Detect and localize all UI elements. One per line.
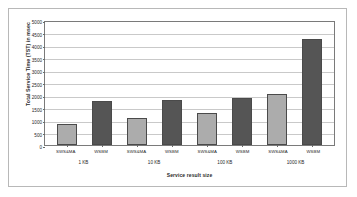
- bar[interactable]: [92, 101, 112, 145]
- x-tick-mark: [277, 145, 278, 147]
- bar[interactable]: [127, 118, 147, 145]
- x-tick-mark: [207, 145, 208, 147]
- bar-slot: [49, 22, 84, 145]
- x-axis-group-label: 10 KB: [119, 160, 190, 165]
- bar-series: [45, 22, 334, 145]
- bar-slot: [154, 22, 189, 145]
- x-axis-category-label: WSBM: [225, 149, 260, 154]
- bar-slot: [190, 22, 225, 145]
- bar-slot: [295, 22, 330, 145]
- screenshot-root: Total Service Time (TST) in msec 0500100…: [0, 0, 357, 197]
- x-axis-category-labels: SWS&MAWSBMSWS&MAWSBMSWS&MAWSBMSWS&MAWSBM: [44, 149, 335, 154]
- x-tick-mark: [137, 145, 138, 147]
- x-axis-category-label: WSBM: [83, 149, 118, 154]
- x-axis-category-label: SWS&MA: [119, 149, 154, 154]
- x-axis-category-label: WSBM: [154, 149, 189, 154]
- y-tick-label: 1000: [32, 120, 42, 125]
- y-tick-label: 4000: [32, 45, 42, 50]
- bar-slot: [84, 22, 119, 145]
- figure-frame: Total Service Time (TST) in msec 0500100…: [8, 8, 347, 187]
- y-tick-label: 500: [34, 132, 42, 137]
- bar-slot: [260, 22, 295, 145]
- y-tick-label: 0: [39, 145, 42, 150]
- x-axis-group-label: 100 KB: [190, 160, 261, 165]
- bar[interactable]: [302, 39, 322, 145]
- bar-slot: [225, 22, 260, 145]
- y-tick-label: 5000: [32, 20, 42, 25]
- x-axis-title: Service result size: [44, 172, 335, 178]
- y-tick-label: 3000: [32, 70, 42, 75]
- bar[interactable]: [267, 94, 287, 145]
- x-axis-group-labels: 1 KB10 KB100 KB1000 KB: [44, 160, 335, 165]
- plot-area: 0500100015002000250030003500400045005000: [44, 21, 335, 146]
- x-axis-group-label: 1 KB: [48, 160, 119, 165]
- y-tick-mark: [43, 147, 45, 148]
- x-axis-group-label: 1000 KB: [260, 160, 331, 165]
- y-tick-label: 2000: [32, 95, 42, 100]
- x-tick-mark: [242, 145, 243, 147]
- y-tick-label: 1500: [32, 107, 42, 112]
- bar[interactable]: [162, 100, 182, 145]
- x-axis-category-label: SWS&MA: [190, 149, 225, 154]
- y-axis-title: Total Service Time (TST) in msec: [25, 9, 31, 119]
- x-axis-category-label: SWS&MA: [48, 149, 83, 154]
- bar-slot: [119, 22, 154, 145]
- x-tick-mark: [172, 145, 173, 147]
- x-tick-mark: [312, 145, 313, 147]
- bar[interactable]: [232, 98, 252, 146]
- y-tick-label: 4500: [32, 32, 42, 37]
- x-tick-mark: [67, 145, 68, 147]
- bar-chart: Total Service Time (TST) in msec 0500100…: [9, 9, 346, 186]
- x-tick-mark: [102, 145, 103, 147]
- bar[interactable]: [57, 124, 77, 145]
- x-axis-category-label: WSBM: [296, 149, 331, 154]
- y-tick-label: 2500: [32, 82, 42, 87]
- x-axis-category-label: SWS&MA: [260, 149, 295, 154]
- y-tick-label: 3500: [32, 57, 42, 62]
- bar[interactable]: [197, 113, 217, 146]
